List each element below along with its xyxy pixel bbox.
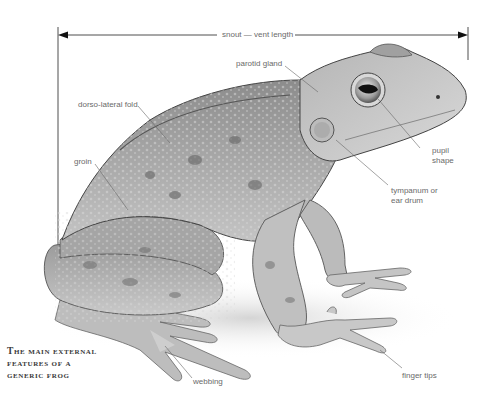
webbing-label: webbing xyxy=(193,377,223,387)
arrow-left-icon xyxy=(58,32,68,39)
tympanum-label-1: tympanum or xyxy=(391,186,438,196)
finger-tips-label: finger tips xyxy=(402,371,437,381)
arrow-right-icon xyxy=(458,32,468,39)
groin-label: groin xyxy=(74,157,92,167)
title-line-2: features of a xyxy=(7,357,97,369)
head xyxy=(300,44,466,161)
dorso-lateral-fold-label: dorso-lateral fold xyxy=(78,100,138,110)
leader-finger-tips xyxy=(380,350,402,368)
pupil-shape-label-1: pupil xyxy=(432,146,449,156)
diagram-title: The main external features of a generic … xyxy=(7,345,97,381)
title-line-3: generic frog xyxy=(7,369,97,381)
frog-diagram: snout — vent length parotid gland dorso-… xyxy=(0,0,486,404)
title-line-1: The main external xyxy=(7,345,97,357)
snout-vent-length-label: snout — vent length xyxy=(220,30,295,40)
nostril xyxy=(436,95,440,99)
pupil-shape-label-2: shape xyxy=(432,156,454,166)
parotid-gland-label: parotid gland xyxy=(236,59,282,69)
tympanum-label-2: ear drum xyxy=(391,196,423,206)
